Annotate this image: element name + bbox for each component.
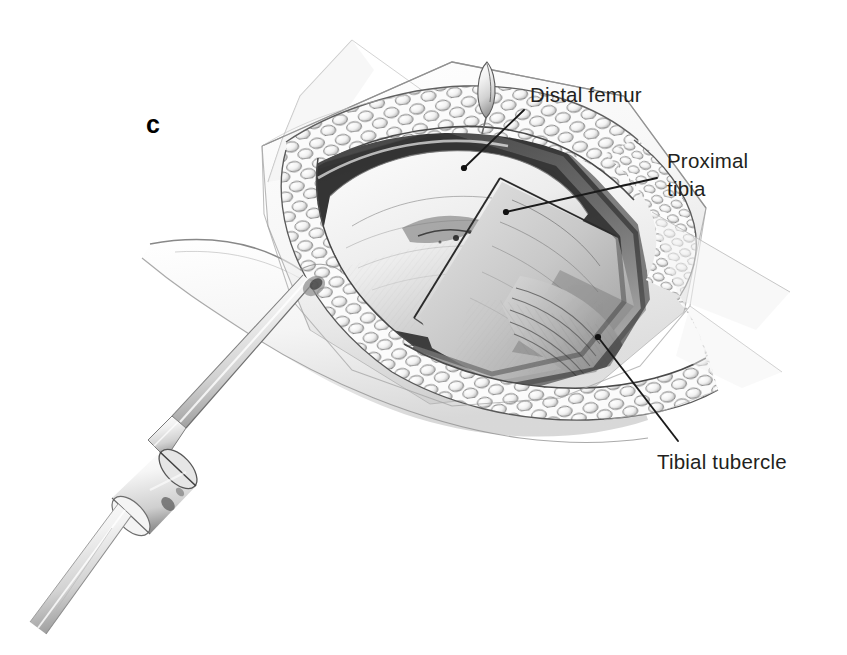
label-proximal-tibia-line-2: tibia (667, 177, 706, 200)
label-proximal-tibia-line-1: Proximal (667, 149, 748, 172)
figure-root: c Distal femur Proximal tibia Tibial tub… (0, 0, 847, 655)
pin-shaft-lower (30, 504, 131, 634)
label-distal-femur: Distal femur (530, 83, 642, 106)
label-tibial-tubercle: Tibial tubercle (657, 450, 787, 473)
leader-dot-proximal-tibia (503, 209, 509, 215)
panel-letter: c (146, 110, 160, 138)
leader-dot-tibial-tubercle (595, 334, 601, 340)
leader-dot-distal-femur (461, 165, 467, 171)
label-distal-femur-line-1: Distal femur (530, 83, 642, 106)
surgical-illustration: c Distal femur Proximal tibia Tibial tub… (0, 0, 847, 655)
label-tibial-tubercle-line-1: Tibial tubercle (657, 450, 787, 473)
